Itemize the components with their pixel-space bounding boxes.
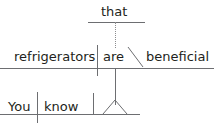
word-beneficial: beneficial (146, 50, 209, 63)
triangle-pedestal-icon (103, 100, 128, 115)
word-know: know (44, 100, 78, 113)
baseline-main-clause (0, 114, 140, 115)
divider-verb-object-main (93, 93, 94, 114)
sentence-diagram: that refrigerators are beneficial You kn… (0, 0, 214, 125)
predicate-adjective-slant-icon (128, 47, 144, 68)
baseline-relative-pronoun (88, 22, 145, 23)
baseline-noun-clause (0, 68, 214, 69)
word-you: You (8, 100, 30, 113)
dotted-connector-icon (115, 22, 116, 48)
word-that: that (101, 5, 127, 18)
divider-subject-verb-main (37, 92, 38, 123)
divider-subject-verb (97, 45, 98, 76)
word-refrigerators: refrigerators (14, 50, 95, 63)
word-are: are (103, 50, 124, 63)
